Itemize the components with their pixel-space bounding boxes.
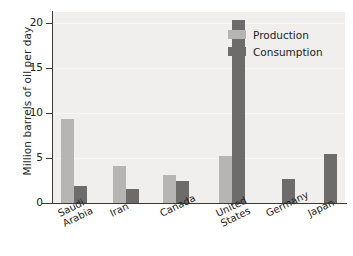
gridline bbox=[53, 68, 345, 69]
y-axis-tick-label: 10 bbox=[13, 106, 43, 118]
y-axis-title: Million barrels of oil per day bbox=[21, 11, 33, 191]
y-axis-tick bbox=[46, 113, 53, 114]
gridline bbox=[53, 113, 345, 114]
y-axis-tick-label: 5 bbox=[13, 151, 43, 163]
y-axis-tick-label: 15 bbox=[13, 61, 43, 73]
y-axis-tick bbox=[46, 23, 53, 24]
chart-legend: Production Consumption bbox=[228, 27, 323, 61]
bar bbox=[324, 154, 337, 203]
bar bbox=[113, 166, 126, 203]
y-axis-tick bbox=[46, 203, 53, 204]
legend-item-consumption: Consumption bbox=[228, 44, 323, 59]
bar bbox=[126, 189, 139, 203]
y-axis-tick bbox=[46, 68, 53, 69]
bar bbox=[219, 156, 232, 203]
gridline bbox=[53, 158, 345, 159]
legend-label-production: Production bbox=[253, 29, 309, 41]
bar bbox=[163, 175, 176, 203]
bar-chart-figure: Million barrels of oil per day 05101520 … bbox=[0, 0, 353, 256]
bar bbox=[61, 119, 74, 203]
y-axis-tick-label: 20 bbox=[13, 16, 43, 28]
legend-swatch-consumption-icon bbox=[228, 47, 246, 56]
y-axis-tick-label: 0 bbox=[13, 196, 43, 208]
legend-label-consumption: Consumption bbox=[253, 46, 323, 58]
gridline bbox=[53, 23, 345, 24]
y-axis-tick bbox=[46, 158, 53, 159]
legend-item-production: Production bbox=[228, 27, 323, 42]
y-axis-line bbox=[52, 11, 53, 204]
legend-swatch-production-icon bbox=[228, 30, 246, 39]
